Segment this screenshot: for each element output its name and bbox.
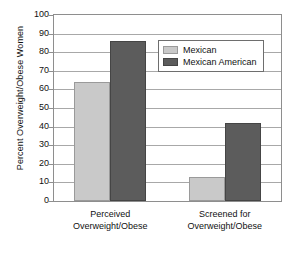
gridline [54,108,281,109]
legend-item-mexican: Mexican [163,44,257,56]
y-tick-label: 100 [19,10,49,19]
y-tick-label: 50 [19,103,49,112]
x-axis-labels: PerceivedOverweight/ObeseScreened forOve… [53,208,282,248]
y-tick-label: 40 [19,122,49,131]
legend-item-mexican-american: Mexican American [163,56,257,68]
x-axis-category-label: PerceivedOverweight/Obese [50,208,170,232]
legend-label-mexican: Mexican [183,46,217,55]
y-tick-label: 80 [19,47,49,56]
y-tick-label: 10 [19,177,49,186]
legend-swatch-icon-mexican [163,46,178,54]
bar-chart: Percent Overweight/Obese Women 100908070… [0,0,297,259]
y-tick-label: 90 [19,29,49,38]
y-tick-label: 0 [19,196,49,205]
gridline [54,182,281,183]
gridline [54,127,281,128]
x-axis-category-line: Overweight/Obese [50,220,170,232]
y-tick-label: 30 [19,140,49,149]
x-axis-category-line: Perceived [50,208,170,220]
legend: Mexican Mexican American [158,40,264,72]
legend-label-mexican-american: Mexican American [183,58,257,67]
legend-swatch-icon-mexican-american [163,58,178,66]
y-tick-label: 70 [19,66,49,75]
gridline [54,145,281,146]
x-axis-category-line: Screened for [165,208,285,220]
y-tick-label: 60 [19,84,49,93]
y-tick-label: 20 [19,159,49,168]
gridline [54,164,281,165]
gridline [54,34,281,35]
x-axis-category-line: Overweight/Obese [165,220,285,232]
gridline [54,89,281,90]
x-axis-category-label: Screened forOverweight/Obese [165,208,285,232]
